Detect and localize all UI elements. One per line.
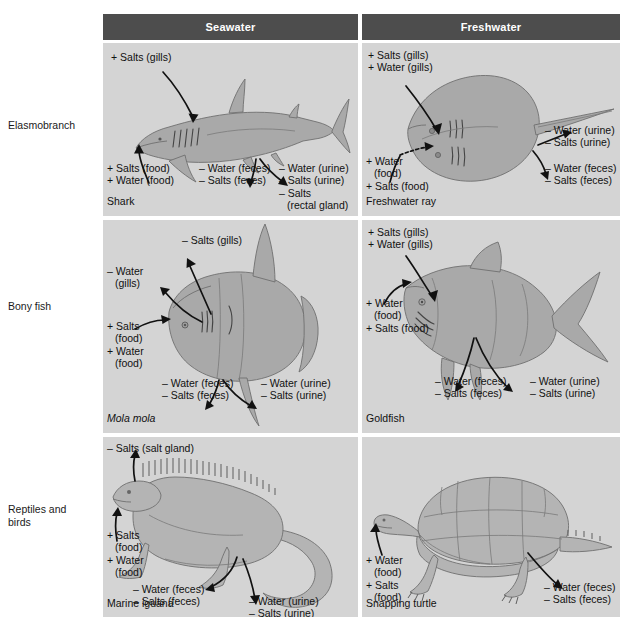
row-label-elasmobranch: Elasmobranch [8,119,100,132]
shark-urine-line2: – Salts (urine) [279,174,349,186]
iguana-feces-line1: – Water (feces) [133,583,204,595]
column-header-seawater: Seawater [103,14,358,40]
mola-feces-line2: – Salts (feces) [162,389,233,401]
arrow-iguana-urine-out [243,559,255,599]
cell-freshwater-ray: + Salts (gills) + Water (gills) + Water … [362,43,620,216]
organism-name-shark: Shark [107,195,134,207]
iguana-flux-salt-gland: – Salts (salt gland) [107,442,194,454]
goldfish-urine-line1: – Water (urine) [530,375,600,387]
ray-urine-line1: – Water (urine) [545,124,615,136]
mola-flux-gills-water: – Water (gills) [107,265,143,290]
goldfish-food-line2: (food) [366,309,429,321]
organism-name-marine-iguana: Marine iguana [107,597,174,609]
goldfish-flux-food: + Water (food) + Salts (food) [366,297,429,334]
cell-goldfish: + Salts (gills) + Water (gills) + Water … [362,220,620,433]
osmoregulation-figure: Elasmobranch Bony fish Reptiles and bird… [0,0,636,634]
turtle-flux-feces: – Water (feces) – Salts (feces) [544,581,615,606]
shark-flux-feces: – Water (feces) – Salts (feces) [199,162,270,187]
ray-food-line2: (food) [366,167,429,179]
row-label-reptiles-line2: birds [8,516,100,529]
organism-name-goldfish-text: Goldfish [366,412,405,424]
shark-flux-gills: + Salts (gills) [111,51,171,63]
organism-name-mola-mola-text: Mola mola [107,412,155,424]
iguana-flux-urine: – Water (urine) – Salts (urine) [249,595,319,617]
mola-urine-line1: – Water (urine) [261,377,331,389]
mola-food-line2: (food) [107,332,144,344]
column-header-freshwater: Freshwater [362,14,620,40]
ray-flux-gills: + Salts (gills) + Water (gills) [368,49,433,74]
ray-food-line1: + Water [366,155,429,167]
goldfish-gills-line1: + Salts (gills) [368,226,433,238]
arrow-iguana-salt-gland-out [134,455,136,481]
ray-feces-line1: – Water (feces) [545,162,616,174]
iguana-food-line3: + Water [107,554,144,566]
ray-flux-food: + Water (food) + Salts (food) [366,155,429,192]
mola-gills-salts-line1: – Salts (gills) [182,234,242,246]
ray-flux-feces: – Water (feces) – Salts (feces) [545,162,616,187]
comparison-table: Seawater Freshwater [103,14,620,617]
row-label-reptiles-birds: Reptiles and birds [8,503,100,529]
iguana-urine-line1: – Water (urine) [249,595,319,607]
iguana-urine-line2: – Salts (urine) [249,607,319,617]
arrow-turtle-food-in [376,529,382,555]
ray-urine-line2: – Salts (urine) [545,136,615,148]
mola-gills-water-line1: – Water [107,265,143,277]
goldfish-gills-line2: + Water (gills) [368,238,433,250]
organism-name-shark-text: Shark [107,195,134,207]
ray-gills-line2: + Water (gills) [368,61,433,73]
mola-flux-gills-salts: – Salts (gills) [182,234,242,246]
goldfish-flux-gills: + Salts (gills) + Water (gills) [368,226,433,251]
shark-urine-line1: – Water (urine) [279,162,349,174]
mola-flux-feces: – Water (feces) – Salts (feces) [162,377,233,402]
iguana-food-line2: (food) [107,541,144,553]
mola-food-line3: + Water [107,345,144,357]
shark-flux-urine: – Water (urine) – Salts (urine) – Salts … [279,162,349,212]
shark-gills-line1: + Salts (gills) [111,51,171,63]
cell-shark: + Salts (gills) + Salts (food) + Water (… [103,43,358,216]
iguana-food-line1: + Salts [107,529,144,541]
cell-snapping-turtle: + Water (food) + Salts (food) – Water (f… [362,437,620,617]
turtle-feces-line1: – Water (feces) [544,581,615,593]
shark-flux-food: + Salts (food) + Water (food) [107,162,174,187]
cell-mola-mola: – Salts (gills) – Water (gills) + Salts … [103,220,358,433]
shark-food-line1: + Salts (food) [107,162,174,174]
mola-food-line4: (food) [107,357,144,369]
iguana-salt-gland-line1: – Salts (salt gland) [107,442,194,454]
arrow-gills-in [163,72,193,117]
column-header-seawater-text: Seawater [206,21,256,33]
shark-feces-line1: – Water (feces) [199,162,270,174]
iguana-flux-food: + Salts (food) + Water (food) [107,529,144,579]
goldfish-feces-line1: – Water (feces) [435,375,506,387]
turtle-food-line3: + Salts [366,579,403,591]
mola-urine-line2: – Salts (urine) [261,389,331,401]
shark-food-line2: + Water (food) [107,174,174,186]
mola-flux-urine: – Water (urine) – Salts (urine) [261,377,331,402]
goldfish-urine-line2: – Salts (urine) [530,387,600,399]
shark-feces-line2: – Salts (feces) [199,174,270,186]
mola-gills-water-line2: (gills) [107,277,143,289]
turtle-feces-line2: – Salts (feces) [544,593,615,605]
goldfish-feces-line2: – Salts (feces) [435,387,506,399]
goldfish-food-line3: + Salts (food) [366,322,429,334]
column-header-freshwater-text: Freshwater [461,21,522,33]
row-label-bony-fish-text: Bony fish [8,300,51,312]
ray-flux-urine: – Water (urine) – Salts (urine) [545,124,615,149]
organism-name-marine-iguana-text: Marine iguana [107,597,174,609]
turtle-food-line1: + Water [366,554,403,566]
ray-gills-line1: + Salts (gills) [368,49,433,61]
ray-feces-line2: – Salts (feces) [545,174,616,186]
shark-urine-line4: (rectal gland) [279,199,349,211]
organism-name-snapping-turtle-text: Snapping turtle [366,597,437,609]
iguana-food-line4: (food) [107,566,144,578]
goldfish-food-line1: + Water [366,297,429,309]
organism-name-mola-mola: Mola mola [107,412,155,424]
mola-food-line1: + Salts [107,320,144,332]
ray-food-line3: + Salts (food) [366,180,429,192]
organism-name-freshwater-ray: Freshwater ray [366,195,436,207]
shark-urine-line3: – Salts [279,187,349,199]
organism-name-freshwater-ray-text: Freshwater ray [366,195,436,207]
cell-marine-iguana: – Salts (salt gland) + Salts (food) + Wa… [103,437,358,617]
organism-name-goldfish: Goldfish [366,412,405,424]
row-label-reptiles-line1: Reptiles and [8,503,100,516]
mola-flux-food: + Salts (food) + Water (food) [107,320,144,370]
